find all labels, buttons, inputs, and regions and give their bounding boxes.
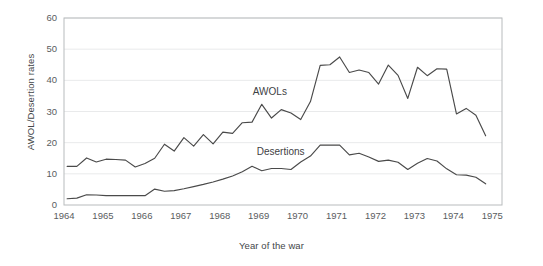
x-axis-title: Year of the war [0,240,543,251]
series-label-awols: AWOLs [253,86,287,97]
line-chart-plot [0,0,543,266]
y-tick-label: 60 [31,12,57,24]
y-tick-label: 50 [31,43,57,55]
y-tick-label: 10 [31,168,57,180]
y-tick-label: 40 [31,74,57,86]
x-tick-label: 1975 [469,210,515,222]
series-label-desertions: Desertions [257,146,305,157]
series-lines [67,57,486,199]
chart-container: AWOL/Desertion rates 0102030405060 19641… [0,0,543,266]
y-tick-label: 30 [31,106,57,118]
y-tick-label: 20 [31,137,57,149]
